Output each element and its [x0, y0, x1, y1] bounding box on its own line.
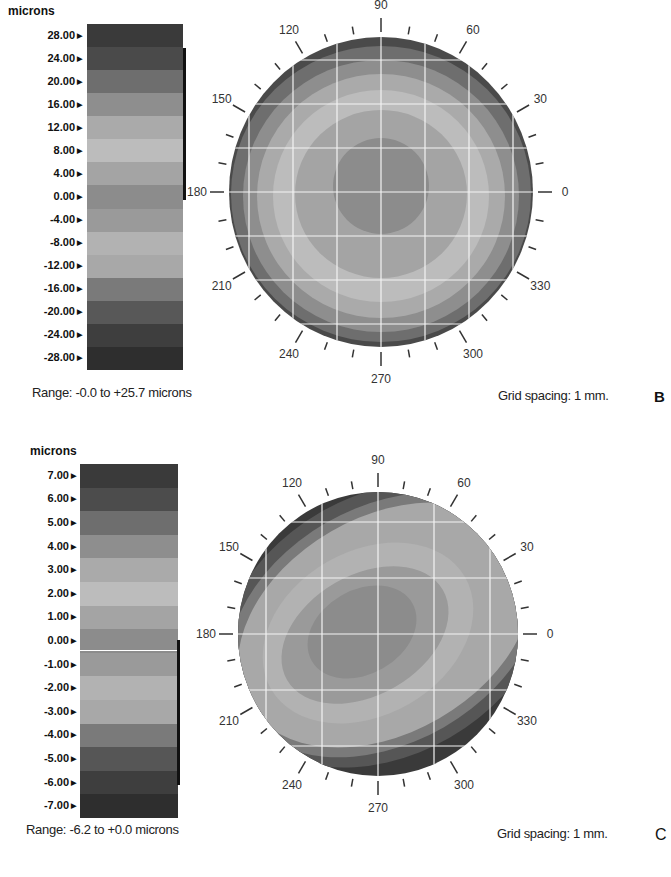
degree-tick [351, 779, 352, 787]
degree-tick [517, 272, 529, 279]
angle-label: 300 [454, 778, 474, 792]
degree-tick [280, 747, 285, 753]
angle-label: 240 [282, 778, 302, 792]
degree-tick [408, 27, 409, 35]
range-text: Range: -6.2 to +0.0 microns [26, 822, 179, 837]
degree-tick [471, 747, 476, 753]
degree-tick [299, 761, 306, 773]
degree-tick [403, 779, 404, 787]
angle-label: 60 [466, 23, 480, 37]
degree-tick [482, 315, 487, 321]
angle-label: 300 [463, 347, 483, 361]
angle-label: 120 [279, 23, 299, 37]
angle-label: 180 [196, 627, 216, 641]
degree-tick [504, 554, 516, 561]
angle-label: 210 [212, 279, 232, 293]
elevation-map: 0306090120150180210240270300330 [0, 440, 671, 840]
grid-spacing-text: Grid spacing: 1 mm. [497, 826, 608, 841]
angle-label: 330 [517, 714, 537, 728]
degree-tick [261, 534, 267, 539]
degree-tick [326, 772, 329, 780]
elevation-map: 0306090120150180210240270300330 [0, 0, 671, 400]
degree-tick [352, 27, 353, 35]
angle-label: 210 [219, 714, 239, 728]
degree-tick [489, 534, 495, 539]
degree-tick [325, 342, 328, 350]
degree-tick [514, 581, 522, 584]
degree-tick [240, 554, 252, 561]
degree-tick [325, 34, 328, 42]
degree-tick [240, 708, 252, 715]
degree-tick [521, 660, 529, 661]
angle-label: 0 [547, 627, 554, 641]
degree-tick [233, 105, 245, 112]
degree-tick [460, 331, 467, 343]
degree-tick [261, 728, 267, 733]
degree-tick [226, 135, 234, 138]
degree-tick [504, 708, 516, 715]
degree-tick [255, 84, 261, 89]
degree-tick [482, 63, 487, 69]
degree-tick [435, 342, 438, 350]
degree-tick [233, 272, 245, 279]
degree-tick [326, 488, 329, 496]
degree-tick [234, 684, 242, 687]
angle-label: 270 [368, 801, 388, 815]
grid-spacing-text: Grid spacing: 1 mm. [498, 388, 609, 403]
angle-label: 60 [457, 476, 471, 490]
degree-tick [428, 488, 431, 496]
degree-tick [219, 163, 227, 164]
degree-tick [275, 315, 280, 321]
angle-label: 150 [212, 92, 232, 106]
degree-tick [435, 34, 438, 42]
panel-letter: B [654, 388, 665, 405]
degree-tick [275, 63, 280, 69]
degree-tick [514, 684, 522, 687]
degree-tick [280, 515, 285, 521]
degree-tick [536, 220, 544, 221]
degree-tick [517, 105, 529, 112]
panel-letter: C [655, 826, 667, 844]
degree-tick [227, 607, 235, 608]
degree-tick [403, 481, 404, 489]
degree-tick [226, 247, 234, 250]
angle-label: 270 [371, 372, 391, 386]
degree-tick [501, 295, 507, 300]
degree-tick [471, 515, 476, 521]
angle-label: 240 [279, 347, 299, 361]
angle-label: 30 [534, 92, 548, 106]
angle-label: 180 [187, 185, 207, 199]
angle-label: 30 [520, 540, 534, 554]
degree-tick [352, 350, 353, 358]
angle-label: 330 [530, 279, 550, 293]
angle-label: 90 [371, 453, 385, 467]
degree-tick [451, 495, 458, 507]
degree-tick [428, 772, 431, 780]
degree-tick [296, 41, 303, 53]
degree-tick [255, 295, 261, 300]
degree-tick [529, 247, 537, 250]
degree-tick [489, 728, 495, 733]
panel-c: microns 7.00▶6.00▶5.00▶4.00▶3.00▶2.00▶1.… [0, 440, 671, 877]
degree-tick [234, 581, 242, 584]
degree-tick [501, 84, 507, 89]
angle-label: 150 [219, 540, 239, 554]
panel-b: microns 28.00▶24.00▶20.00▶16.00▶12.00▶8.… [0, 0, 671, 440]
degree-tick [521, 607, 529, 608]
degree-tick [451, 761, 458, 773]
degree-tick [529, 135, 537, 138]
angle-label: 0 [562, 185, 569, 199]
degree-tick [408, 350, 409, 358]
angle-label: 120 [282, 476, 302, 490]
degree-tick [296, 331, 303, 343]
degree-tick [299, 495, 306, 507]
degree-tick [536, 163, 544, 164]
degree-tick [351, 481, 352, 489]
degree-tick [219, 220, 227, 221]
range-text: Range: -0.0 to +25.7 microns [32, 385, 192, 400]
degree-tick [227, 660, 235, 661]
degree-tick [460, 41, 467, 53]
angle-label: 90 [374, 0, 388, 12]
